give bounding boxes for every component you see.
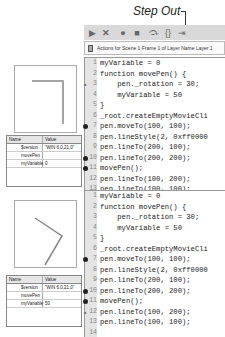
stop-debugging-icon[interactable]: ✕ [101,28,111,38]
code-line[interactable]: 4 myVariable = 50 [85,90,225,101]
code-line[interactable]: 3➜ pen._rotation = 30; [85,79,225,90]
code-text: _root.createEmptyMovieCli [100,244,208,255]
code-editor-2[interactable]: 1myVariable = 02function movePen() {3 pe… [84,190,225,337]
table-row[interactable]: $version"WIN 6,0,21,0" [7,144,81,152]
table-row[interactable]: movePen [7,152,81,160]
step-out-callout: Step Out [133,4,180,18]
table-row[interactable]: myVariable0 [7,160,81,168]
callout-leader-line [181,11,186,25]
code-text: } [100,100,104,111]
step-over-icon[interactable]: ⤼ [149,28,159,38]
line-number: 2 [85,202,97,213]
code-line[interactable]: 7pen.moveTo(100, 100); [85,121,225,132]
drawing-canvas [15,201,78,269]
code-line[interactable]: 14 [85,328,225,337]
code-editor-1[interactable]: 1myVariable = 02function movePen() {3➜ p… [84,57,225,207]
code-text: pen.lineTo(100, 100); [100,317,191,328]
document-icon [88,45,93,52]
step-out-icon[interactable]: ⇥ [177,28,187,38]
line-number: 3 [85,212,97,223]
code-line[interactable]: 2function movePen() { [85,69,225,80]
line-number: 4 [85,90,97,101]
breakpoint-icon[interactable] [83,156,88,161]
variable-name: movePen [7,292,43,299]
code-line[interactable]: 6_root.createEmptyMovieCli [85,111,225,122]
table-row[interactable]: myVariable50 [7,300,81,308]
breakpoint-icon[interactable] [83,124,88,129]
code-line[interactable]: 9pen.lineTo(200, 100); [85,275,225,286]
breakpoint-icon[interactable] [83,289,88,294]
code-text: myVariable = 0 [100,191,160,202]
line-number: 9 [85,275,97,286]
breakpoint-icon[interactable] [83,299,88,304]
code-text: pen._rotation = 30; [100,79,199,90]
table-empty-space [7,308,81,326]
code-line[interactable]: 5} [85,233,225,244]
code-text: myVariable = 0 [100,58,160,69]
breakpoint-icon[interactable] [83,257,88,262]
continue-icon[interactable]: ▶ [87,28,97,38]
code-text: function movePen() { [100,69,186,80]
line-number: 6 [85,111,97,122]
pen-stroke [32,81,63,124]
code-line[interactable]: 5} [85,100,225,111]
code-line[interactable]: 7pen.moveTo(100, 100); [85,254,225,265]
code-line[interactable]: 11movePen(); [85,296,225,307]
code-text: movePen(); [100,296,143,307]
code-text: myVariable = 50 [100,223,182,234]
code-line[interactable]: 4 myVariable = 50 [85,223,225,234]
code-line[interactable]: 1myVariable = 0 [85,191,225,202]
code-line[interactable]: 8pen.lineStyle(2, 0xff0000 [85,132,225,143]
code-line[interactable]: 6_root.createEmptyMovieCli [85,244,225,255]
stage-preview-2 [14,200,77,268]
code-text: function movePen() { [100,202,186,213]
stage-preview-1 [14,65,77,133]
line-number: 5 [85,100,97,111]
variable-name: myVariable [7,300,43,307]
remove-breakpoints-icon[interactable]: ■ [132,28,142,38]
line-number: 8 [85,265,97,276]
table-header: NameValue [7,276,81,284]
code-line[interactable]: 3 pen._rotation = 30; [85,212,225,223]
code-line[interactable]: 2function movePen() { [85,202,225,213]
code-text: _root.createEmptyMovieCli [100,111,208,122]
code-text: pen.lineTo(100, 200); [100,174,191,185]
code-line[interactable]: 11movePen(); [85,163,225,174]
variable-name: $version [7,144,43,151]
table-row[interactable]: movePen [7,292,81,300]
actions-title: Actions for Scene 1 Frame 1 of Layer Nam… [97,45,213,51]
variable-name: $version [7,284,43,291]
table-row[interactable]: $version"WIN 6,0,21,0" [7,284,81,292]
code-text: pen.lineStyle(2, 0xff0000 [100,132,208,143]
code-text: myVariable = 50 [100,90,182,101]
code-text: pen.lineStyle(2, 0xff0000 [100,265,208,276]
code-text: pen.lineTo(200, 100); [100,275,191,286]
code-line[interactable]: 1myVariable = 0 [85,58,225,69]
variable-value: 0 [43,160,81,167]
code-line[interactable]: 13pen.lineTo(100, 100); [85,317,225,328]
code-line[interactable]: 12➜pen.lineTo(100, 200); [85,307,225,318]
line-number: 9 [85,142,97,153]
variable-value: "WIN 6,0,21,0" [43,144,81,151]
variable-name: movePen [7,152,43,159]
code-line[interactable]: 9pen.lineTo(200, 100); [85,142,225,153]
column-header-name: Name [7,276,43,283]
step-in-icon[interactable]: {} [163,28,173,38]
drawing-canvas [15,66,78,134]
debugger-toolbar: ▶ ✕ ● ■ ⤼ {} ⇥ [84,25,225,40]
actions-header: Actions for Scene 1 Frame 1 of Layer Nam… [84,41,225,55]
code-text: pen.lineTo(200, 200); [100,153,191,164]
toggle-breakpoint-icon[interactable]: ● [118,28,128,38]
line-number: 2 [85,69,97,80]
line-number: 4 [85,223,97,234]
code-text: } [100,233,104,244]
code-line[interactable]: 10pen.lineTo(200, 200); [85,153,225,164]
code-line[interactable]: 12pen.lineTo(100, 200); [85,174,225,185]
line-number: 13 [85,317,97,328]
code-line[interactable]: 8pen.lineStyle(2, 0xff0000 [85,265,225,276]
code-line[interactable]: 10pen.lineTo(200, 200); [85,286,225,297]
variable-value: 50 [43,300,81,307]
breakpoint-icon[interactable] [83,166,88,171]
code-text: pen.lineTo(200, 200); [100,286,191,297]
line-number: 5 [85,233,97,244]
